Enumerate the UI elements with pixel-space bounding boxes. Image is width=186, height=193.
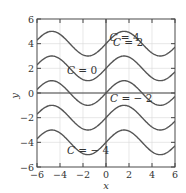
x-axis-label: x [103, 180, 109, 191]
x-tick-label: −4 [53, 169, 67, 180]
x-tick-label: 2 [126, 169, 132, 180]
y-axis-label: y [9, 93, 20, 100]
x-tick-label: 4 [149, 169, 155, 180]
chart: −6−4−20246 −6−4−20246 C = 4C = 2C = 0C =… [0, 0, 186, 193]
y-tick-label: 2 [28, 63, 34, 74]
y-tick-label: −6 [20, 162, 34, 173]
x-tick-label: 6 [172, 169, 178, 180]
y-tick-label: 4 [28, 38, 34, 49]
x-tick-label: 0 [103, 169, 109, 180]
curve-label: C = 0 [67, 64, 97, 76]
y-tick-label: −4 [20, 137, 34, 148]
x-tick-labels: −6−4−20246 [30, 169, 178, 180]
y-tick-label: −2 [20, 112, 34, 123]
x-tick-label: −2 [76, 169, 90, 180]
y-tick-labels: −6−4−20246 [20, 14, 34, 173]
curve-label: C = − 2 [110, 92, 152, 104]
curve-label: C = 2 [113, 36, 143, 48]
y-tick-label: 0 [28, 88, 34, 99]
y-tick-label: 6 [28, 14, 34, 25]
curve-label: C = − 4 [67, 144, 110, 156]
